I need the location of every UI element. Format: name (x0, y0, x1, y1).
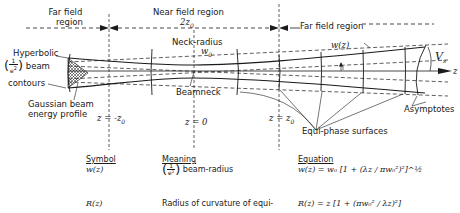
optical-axis (68, 68, 452, 74)
divergence-angle-label: Vs (435, 52, 446, 66)
neck-radius-label: Neck-radius (172, 37, 223, 47)
table-row-symbol: w(z) (86, 165, 103, 175)
table-header-symbol: Symbol (86, 155, 116, 165)
contours-label: contours (8, 78, 45, 88)
z-zero-label: z = 0 (185, 117, 207, 127)
table-row-meaning: (1e²) beam-radius (162, 163, 233, 176)
table-header-equation: Equation (298, 155, 333, 165)
gaussian-profile-label: Gaussian beam energy profile (28, 99, 94, 119)
beam-label: (1e2) beam (4, 58, 50, 74)
z-neg-label: z = -z0 (97, 113, 125, 127)
near-field-width-label: 2z0 (180, 17, 194, 31)
hyperbolic-label: Hyperbolic (13, 48, 59, 58)
table-row-equation: R(z) = z [1 + (πw₀² / λz)²] (298, 199, 401, 209)
table-row-symbol: R(z) (86, 199, 102, 209)
w0-label: w0 (201, 46, 212, 60)
divergence-angle-arc (428, 47, 431, 71)
asymptotes-label: Asymptotes (404, 104, 454, 114)
table-row-meaning: Radius of curvature of equi- (162, 199, 273, 209)
z-pos-label: z = z0 (269, 113, 294, 127)
region-dimension-line (26, 24, 434, 28)
z-axis-label: z (453, 66, 457, 76)
far-field-left-label: Far field region (48, 7, 83, 27)
z-markers (109, 4, 279, 150)
table-row-equation: w(z) = w₀ [1 + (λz / πw₀²)²]^½ (298, 165, 422, 175)
equiphase-label: Equi-phase surfaces (302, 126, 388, 136)
near-field-label: Near field region (153, 7, 224, 17)
beamneck-label: Beamneck (176, 87, 221, 97)
equiphase-leaders (240, 90, 403, 130)
far-field-right-label: Far field region (300, 21, 363, 31)
asymptotes (68, 44, 448, 96)
wz-label: w(z) (331, 40, 349, 50)
